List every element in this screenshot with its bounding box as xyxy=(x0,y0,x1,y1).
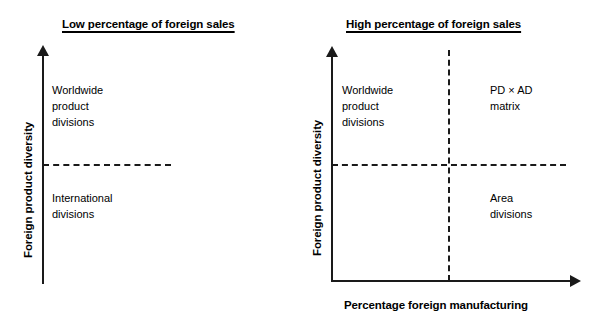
panel-title-low-foreign-sales: Low percentage of foreign sales xyxy=(62,18,235,30)
x-axis-arrowhead-icon xyxy=(570,275,581,287)
quadrant-label-top-right: PD × AD matrix xyxy=(490,82,533,114)
quadrant-line-1: Worldwide xyxy=(52,82,103,98)
quadrant-line-3: divisions xyxy=(52,114,103,130)
quadrant-line-3: divisions xyxy=(342,114,393,130)
horizontal-divider-dashed-line xyxy=(43,164,171,166)
quadrant-label-bottom-right: Area divisions xyxy=(490,190,532,222)
quadrant-line-1: Worldwide xyxy=(342,82,393,98)
y-axis-label: Foreign product diversity xyxy=(311,120,323,256)
quadrant-line-1: PD × AD xyxy=(490,82,533,98)
quadrant-label-top-left: Worldwide product divisions xyxy=(52,82,103,130)
quadrant-label-top-left: Worldwide product divisions xyxy=(342,82,393,130)
panel-low-foreign-sales: Low percentage of foreign sales Foreign … xyxy=(0,0,300,329)
panel-high-foreign-sales: High percentage of foreign sales Foreign… xyxy=(300,0,596,329)
quadrant-line-2: product xyxy=(342,98,393,114)
panel-title-high-foreign-sales: High percentage of foreign sales xyxy=(346,18,521,30)
y-axis-label: Foreign product diversity xyxy=(22,122,34,258)
y-axis-arrowhead-icon xyxy=(326,46,338,57)
y-axis-line xyxy=(42,56,44,284)
diagram-canvas: Low percentage of foreign sales Foreign … xyxy=(0,0,596,329)
y-axis-line xyxy=(331,57,333,282)
quadrant-line-2: divisions xyxy=(52,206,113,222)
y-axis-arrowhead-icon xyxy=(37,45,49,56)
quadrant-label-bottom-left: International divisions xyxy=(52,190,113,222)
quadrant-line-1: International xyxy=(52,190,113,206)
quadrant-line-2: matrix xyxy=(490,98,533,114)
vertical-divider-dashed-line xyxy=(448,50,450,281)
x-axis-line xyxy=(331,280,572,282)
x-axis-label: Percentage foreign manufacturing xyxy=(344,299,528,311)
quadrant-line-2: product xyxy=(52,98,103,114)
quadrant-line-2: divisions xyxy=(490,206,532,222)
quadrant-line-1: Area xyxy=(490,190,532,206)
